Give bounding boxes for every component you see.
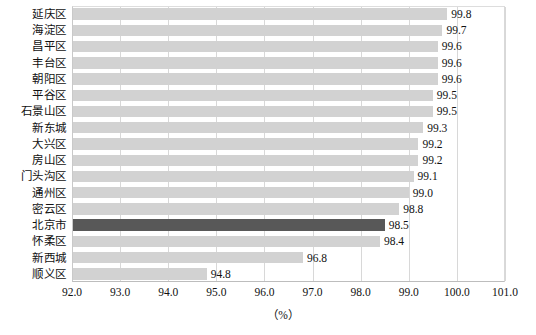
category-label: 房山区 bbox=[0, 152, 66, 168]
value-label: 98.4 bbox=[384, 233, 404, 249]
bar bbox=[73, 203, 399, 214]
bar-row: 平谷区99.5 bbox=[0, 87, 536, 103]
category-label: 昌平区 bbox=[0, 38, 66, 54]
bar bbox=[73, 8, 447, 19]
value-label: 99.1 bbox=[418, 168, 438, 184]
bar-row: 大兴区99.2 bbox=[0, 136, 536, 152]
bar bbox=[73, 155, 418, 166]
category-label: 朝阳区 bbox=[0, 71, 66, 87]
value-label: 98.5 bbox=[389, 217, 409, 233]
category-label: 丰台区 bbox=[0, 55, 66, 71]
bar-row: 石景山区99.5 bbox=[0, 103, 536, 119]
bar-row: 新西城96.8 bbox=[0, 250, 536, 266]
bar bbox=[73, 171, 414, 182]
value-label: 99.5 bbox=[437, 103, 457, 119]
category-label: 新西城 bbox=[0, 250, 66, 266]
category-label: 石景山区 bbox=[0, 103, 66, 119]
bar-row: 通州区99.0 bbox=[0, 185, 536, 201]
category-label: 大兴区 bbox=[0, 136, 66, 152]
bar-row: 昌平区99.6 bbox=[0, 38, 536, 54]
bar-row: 顺义区94.8 bbox=[0, 266, 536, 282]
value-label: 99.6 bbox=[442, 71, 462, 87]
bar bbox=[73, 25, 442, 36]
value-label: 99.0 bbox=[413, 185, 433, 201]
bar-row: 房山区99.2 bbox=[0, 152, 536, 168]
value-label: 99.3 bbox=[427, 120, 447, 136]
value-label: 99.6 bbox=[442, 38, 462, 54]
bar-row: 密云区98.8 bbox=[0, 201, 536, 217]
value-label: 99.5 bbox=[437, 87, 457, 103]
value-label: 99.6 bbox=[442, 55, 462, 71]
bar bbox=[73, 252, 303, 263]
bar bbox=[73, 138, 418, 149]
category-label: 密云区 bbox=[0, 201, 66, 217]
category-label: 新东城 bbox=[0, 120, 66, 136]
value-label: 94.8 bbox=[211, 266, 231, 282]
bar bbox=[73, 41, 438, 52]
category-label: 海淀区 bbox=[0, 22, 66, 38]
category-label: 门头沟区 bbox=[0, 168, 66, 184]
value-label: 99.8 bbox=[451, 6, 471, 22]
category-label: 平谷区 bbox=[0, 87, 66, 103]
x-axis-tick-labels: 92.093.094.095.096.097.098.099.0100.0101… bbox=[0, 284, 536, 302]
bar-row: 延庆区99.8 bbox=[0, 6, 536, 22]
x-axis-title: （%） bbox=[0, 306, 536, 322]
bar bbox=[73, 106, 433, 117]
bar-highlight bbox=[73, 219, 385, 230]
bar bbox=[73, 236, 380, 247]
value-label: 99.2 bbox=[422, 136, 442, 152]
category-label: 北京市 bbox=[0, 217, 66, 233]
bar bbox=[73, 268, 207, 279]
bar bbox=[73, 57, 438, 68]
x-tick-label: 101.0 bbox=[475, 284, 535, 300]
bar-row: 丰台区99.6 bbox=[0, 55, 536, 71]
bar-row: 海淀区99.7 bbox=[0, 22, 536, 38]
bar-row: 门头沟区99.1 bbox=[0, 168, 536, 184]
bar-row: 怀柔区98.4 bbox=[0, 233, 536, 249]
bar-row: 新东城99.3 bbox=[0, 120, 536, 136]
category-label: 顺义区 bbox=[0, 266, 66, 282]
bar bbox=[73, 187, 409, 198]
bar bbox=[73, 122, 423, 133]
value-label: 99.7 bbox=[446, 22, 466, 38]
horizontal-bar-chart: 延庆区99.8海淀区99.7昌平区99.6丰台区99.6朝阳区99.6平谷区99… bbox=[0, 0, 536, 335]
x-axis-title-text: （%） bbox=[237, 309, 299, 321]
bars-layer: 延庆区99.8海淀区99.7昌平区99.6丰台区99.6朝阳区99.6平谷区99… bbox=[0, 6, 536, 282]
category-label: 通州区 bbox=[0, 185, 66, 201]
bar-row: 朝阳区99.6 bbox=[0, 71, 536, 87]
value-label: 96.8 bbox=[307, 250, 327, 266]
category-label: 延庆区 bbox=[0, 6, 66, 22]
bar bbox=[73, 73, 438, 84]
value-label: 99.2 bbox=[422, 152, 442, 168]
bar bbox=[73, 90, 433, 101]
category-label: 怀柔区 bbox=[0, 233, 66, 249]
value-label: 98.8 bbox=[403, 201, 423, 217]
bar-row: 北京市98.5 bbox=[0, 217, 536, 233]
